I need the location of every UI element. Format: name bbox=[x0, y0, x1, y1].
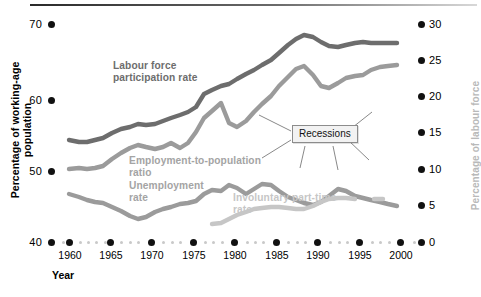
y2-axis-tick-label-25: 25 bbox=[429, 54, 457, 66]
series-label-labour-force-participation-rate: Labour force participation rate bbox=[113, 60, 197, 83]
x-axis-dot bbox=[296, 241, 299, 244]
x-axis-dot bbox=[171, 241, 174, 244]
x-axis-tick-dot-1965 bbox=[107, 239, 114, 246]
series-label-ur-line2: rate bbox=[129, 192, 148, 203]
y2-axis-tick-dot-5 bbox=[418, 202, 425, 209]
y2-axis-tick-dot-30 bbox=[418, 21, 425, 28]
x-axis-dot bbox=[221, 241, 224, 244]
y-axis-title: Percentage of working-age population bbox=[9, 35, 33, 225]
recessions-annotation-box: Recessions bbox=[292, 125, 358, 143]
x-axis-tick-dot-1995 bbox=[356, 239, 363, 246]
x-axis-dot bbox=[204, 241, 207, 244]
x-axis-label-1970: 1970 bbox=[132, 249, 172, 261]
y2-axis-tick-label-0: 0 bbox=[429, 236, 457, 248]
x-axis-tick-dot-1970 bbox=[148, 239, 155, 246]
x-axis-label-1990: 1990 bbox=[298, 249, 338, 261]
y2-axis-tick-dot-25 bbox=[418, 57, 425, 64]
x-axis-tick-dot-2000 bbox=[397, 239, 404, 246]
series-label-unemployment-rate: Unemployment rate bbox=[129, 180, 204, 203]
x-axis-title: Year bbox=[52, 269, 74, 281]
x-axis-dot bbox=[371, 241, 374, 244]
y2-axis-tick-label-20: 20 bbox=[429, 90, 457, 102]
series-label-ipt-line2: rate bbox=[233, 204, 252, 215]
x-axis-tick-dot-1980 bbox=[231, 239, 238, 246]
x-axis-dot bbox=[246, 241, 249, 244]
x-axis-dot bbox=[62, 241, 65, 244]
y2-axis-tick-label-15: 15 bbox=[429, 126, 457, 138]
y-axis-tick-dot-60 bbox=[48, 97, 55, 104]
x-axis-dot bbox=[388, 241, 391, 244]
series-label-employment-to-population-ratio: Employment-to-population ratio bbox=[129, 155, 261, 178]
x-axis-dot bbox=[346, 241, 349, 244]
y2-axis-tick-dot-10 bbox=[418, 166, 425, 173]
y2-axis-tick-dot-20 bbox=[418, 93, 425, 100]
y2-axis-tick-label-30: 30 bbox=[429, 18, 457, 30]
x-axis-label-1960: 1960 bbox=[50, 249, 90, 261]
x-axis-label-1965: 1965 bbox=[91, 249, 131, 261]
y-axis-tick-dot-70 bbox=[48, 21, 55, 28]
y-axis-tick-dot-40 bbox=[48, 239, 55, 246]
x-axis-tick-dot-1975 bbox=[190, 239, 197, 246]
y2-axis-tick-label-10: 10 bbox=[429, 163, 457, 175]
series-label-involuntary-part-time-rate: Involuntary part-time rate bbox=[233, 192, 336, 215]
series-label-epr-line2: ratio bbox=[129, 167, 152, 178]
x-axis-tick-dot-1985 bbox=[273, 239, 280, 246]
x-axis-label-1995: 1995 bbox=[340, 249, 380, 261]
y2-axis-tick-dot-15 bbox=[418, 129, 425, 136]
x-axis-dot bbox=[338, 241, 341, 244]
y-axis-tick-dot-50 bbox=[48, 168, 55, 175]
x-axis-tick-dot-1960 bbox=[66, 239, 73, 246]
y-axis-tick-label-40: 40 bbox=[14, 236, 42, 248]
y-axis-tick-label-70: 70 bbox=[14, 18, 42, 30]
x-axis-dot bbox=[179, 241, 182, 244]
y2-axis-title: Percentage of labour force bbox=[470, 66, 481, 226]
series-label-epr-line1: Employment-to-population bbox=[129, 155, 261, 166]
x-axis-dot bbox=[413, 241, 416, 244]
y2-axis-tick-label-5: 5 bbox=[429, 199, 457, 211]
series-label-ipt-line1: Involuntary part-time bbox=[233, 192, 336, 203]
series-label-lfp-line1: Labour force bbox=[113, 60, 176, 71]
y2-axis-tick-dot-0 bbox=[418, 239, 425, 246]
x-axis-dot bbox=[129, 241, 132, 244]
x-axis-label-2000: 2000 bbox=[381, 249, 421, 261]
x-axis-dot bbox=[79, 241, 82, 244]
series-label-ur-line1: Unemployment bbox=[129, 180, 204, 191]
series-label-lfp-line2: participation rate bbox=[113, 72, 197, 83]
x-axis-label-1985: 1985 bbox=[257, 249, 297, 261]
x-axis-label-1980: 1980 bbox=[215, 249, 255, 261]
x-axis-tick-dot-1990 bbox=[314, 239, 321, 246]
x-axis-label-1975: 1975 bbox=[174, 249, 214, 261]
